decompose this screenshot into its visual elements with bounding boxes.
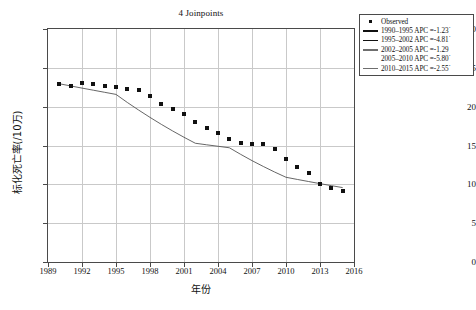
x-axis-tick-label: 2010 [278,266,295,276]
line-icon [363,49,378,50]
y-axis-tick-label: 10 [436,179,476,189]
chart-title: 4 Joinpoints [47,8,355,18]
x-axis-tick-label: 2004 [210,266,227,276]
x-axis-tick-label: 2007 [244,266,261,276]
legend-item: 2005–2010 APC =-5.80˙ [362,55,471,64]
legend-item: 2002–2005 APC =-1.29 [362,45,471,54]
line-icon [363,68,378,69]
legend-line-icon [362,68,379,69]
x-axis-tick-mark [218,263,219,267]
y-axis-tick-label: 5 [436,218,476,228]
x-axis-tick-label: 2016 [346,266,363,276]
x-axis-tick-mark [320,263,321,267]
fitted-regression-line [48,29,354,262]
x-axis-tick-mark [150,263,151,267]
x-axis-tick-mark [184,263,185,267]
y-axis-label: 标化死亡率(/10万) [9,93,24,213]
x-axis-tick-label: 2013 [312,266,329,276]
x-axis-tick-mark [354,263,355,267]
joinpoint-chart: 4 Joinpoints 标化死亡率(/10万) 年份 051015202530… [0,0,476,310]
legend-item-label: 1990–1995 APC =-1.23˙ [381,27,451,35]
x-axis-tick-label: 1995 [108,266,125,276]
legend-item-label: 1995–2002 APC =-4.81˙ [381,36,451,44]
plot-area [47,28,355,263]
y-axis-tick-label: 0 [436,257,476,267]
legend-item: 2010–2015 APC =-2.55˙ [362,64,471,73]
legend-item: 1990–1995 APC =-1.23˙ [362,26,471,35]
legend-item: Observed [362,17,471,26]
legend-line-icon [362,59,379,60]
square-icon [369,20,372,23]
legend-line-icon [362,49,379,50]
x-axis-tick-mark [286,263,287,267]
legend-item-label: 2010–2015 APC =-2.55˙ [381,65,451,73]
y-axis-tick-label: 20 [436,102,476,112]
x-axis-tick-mark [82,263,83,267]
x-axis-label: 年份 [47,281,355,296]
legend-item: 1995–2002 APC =-4.81˙ [362,36,471,45]
line-icon [363,40,378,41]
line-icon [363,30,378,31]
x-axis-tick-mark [252,263,253,267]
fit-polyline [59,84,342,188]
legend-item-label: Observed [381,18,408,26]
x-axis-tick-label: 2001 [176,266,193,276]
legend-square-marker-icon [362,20,379,23]
x-axis-tick-label: 1998 [142,266,159,276]
x-axis-tick-label: 1992 [74,266,91,276]
legend-item-label: 2005–2010 APC =-5.80˙ [381,55,451,63]
line-icon [363,59,378,60]
x-axis-tick-mark [116,263,117,267]
legend: Observed1990–1995 APC =-1.23˙1995–2002 A… [359,14,474,76]
x-axis-tick-mark [48,263,49,267]
x-axis-tick-label: 1989 [40,266,57,276]
legend-line-icon [362,30,379,31]
legend-item-label: 2002–2005 APC =-1.29 [381,46,449,54]
legend-line-icon [362,40,379,41]
y-axis-tick-label: 15 [436,141,476,151]
